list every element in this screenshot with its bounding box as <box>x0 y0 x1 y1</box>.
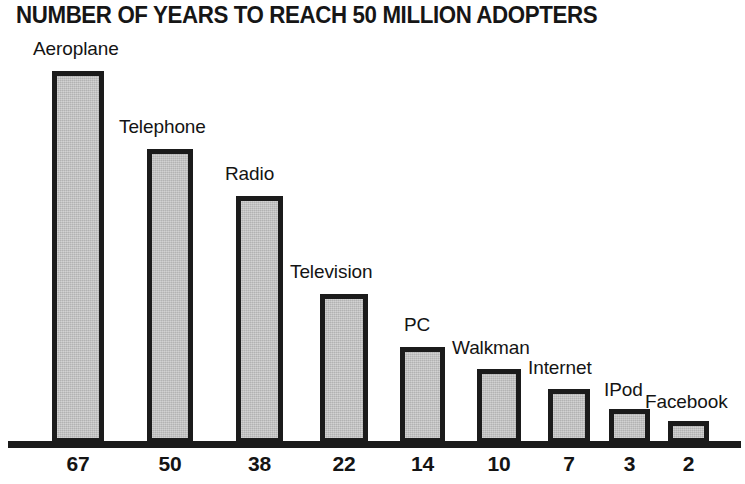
tick-label-ipod: 3 <box>609 452 650 476</box>
bar-rect <box>609 409 650 443</box>
tick-label-aeroplane: 67 <box>52 452 104 476</box>
plot-area: AeroplaneTelephoneRadioTelevisionPCWalkm… <box>0 0 745 484</box>
tick-label-radio: 38 <box>236 452 283 476</box>
tick-label-pc: 14 <box>400 452 445 476</box>
bar-label-ipod: IPod <box>604 379 643 401</box>
bar-radio <box>236 196 283 443</box>
bar-facebook <box>668 421 709 443</box>
bar-label-internet: Internet <box>528 357 592 379</box>
bar-rect <box>477 369 521 443</box>
tick-label-facebook: 2 <box>668 452 709 476</box>
bar-fill-texture <box>405 352 440 438</box>
bar-label-radio: Radio <box>225 163 274 185</box>
bar-rect <box>400 347 445 443</box>
bar-walkman <box>477 369 521 443</box>
bar-telephone <box>147 149 193 443</box>
bar-pc <box>400 347 445 443</box>
bar-fill-texture <box>482 374 516 438</box>
tick-label-internet: 7 <box>548 452 590 476</box>
bar-rect <box>320 294 368 443</box>
bar-aeroplane <box>52 71 104 443</box>
bar-fill-texture <box>57 76 99 438</box>
bar-internet <box>548 389 590 443</box>
bar-label-aeroplane: Aeroplane <box>33 38 119 60</box>
bar-label-walkman: Walkman <box>452 337 530 359</box>
bar-label-facebook: Facebook <box>645 391 728 413</box>
bar-rect <box>147 149 193 443</box>
tick-label-telephone: 50 <box>147 452 193 476</box>
bar-label-telephone: Telephone <box>119 116 206 138</box>
bar-fill-texture <box>614 414 645 438</box>
bar-ipod <box>609 409 650 443</box>
bar-label-pc: PC <box>404 314 430 336</box>
bar-fill-texture <box>553 394 585 438</box>
bar-television <box>320 294 368 443</box>
bar-fill-texture <box>325 299 363 438</box>
bar-label-television: Television <box>290 261 372 283</box>
bar-fill-texture <box>673 426 704 438</box>
bar-rect <box>236 196 283 443</box>
bar-rect <box>52 71 104 443</box>
bar-rect <box>548 389 590 443</box>
bar-fill-texture <box>241 201 278 438</box>
chart-container: NUMBER OF YEARS TO REACH 50 MILLION ADOP… <box>0 0 745 484</box>
tick-label-television: 22 <box>320 452 368 476</box>
tick-label-walkman: 10 <box>477 452 521 476</box>
bar-fill-texture <box>152 154 188 438</box>
x-axis-line <box>8 441 741 448</box>
bar-rect <box>668 421 709 443</box>
